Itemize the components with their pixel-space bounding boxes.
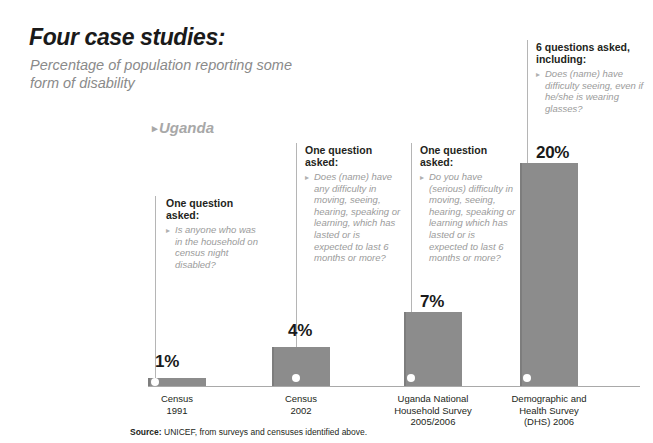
source-label: Source: <box>130 427 162 437</box>
bullet-triangle-icon: ▸ <box>166 225 170 237</box>
callout-body: ▸Does (name) have any difficulty in movi… <box>305 171 401 264</box>
bar-value-label-1: 1% <box>155 352 179 372</box>
callout-heading: One question asked: <box>305 144 401 168</box>
callout-heading: 6 questions asked, including: <box>536 41 648 65</box>
source-note: Source: UNICEF, from surveys and censuse… <box>130 427 367 437</box>
xaxis-label-unhs-2005-2006: Uganda National Household Survey 2005/20… <box>371 393 495 428</box>
bar-census-2002 <box>272 347 330 386</box>
bullet-triangle-icon: ▸ <box>305 172 309 184</box>
bar-value-label-2: 4% <box>288 321 312 341</box>
xlabel-line: Census <box>127 393 227 405</box>
xlabel-line: 2002 <box>251 405 351 417</box>
source-text: UNICEF, from surveys and censuses identi… <box>162 427 368 437</box>
callout-body-text: Does (name) have any difficulty in movin… <box>314 171 400 263</box>
xlabel-line: Health Survey <box>487 405 611 417</box>
xaxis-label-census-2002: Census 2002 <box>251 393 351 416</box>
xlabel-line: Demographic and <box>487 393 611 405</box>
leader-line-2 <box>296 143 297 381</box>
bar-value-label-4: 20% <box>536 143 569 163</box>
bar-value-label-3: 7% <box>420 292 444 312</box>
bar-anchor-dot-3 <box>407 374 415 382</box>
infographic-canvas: Four case studies: Percentage of populat… <box>0 0 653 443</box>
xlabel-line: Household Survey <box>371 405 495 417</box>
bullet-triangle-icon: ▸ <box>536 69 540 81</box>
callout-heading: One question asked: <box>166 197 262 221</box>
bar-anchor-dot-1 <box>151 378 159 386</box>
callout-body: ▸Is anyone who was in the household on c… <box>166 224 262 270</box>
bar-anchor-dot-4 <box>523 374 531 382</box>
callout-dhs-2006: 6 questions asked, including: ▸Does (nam… <box>536 41 648 114</box>
callout-unhs-2005-2006: One question asked: ▸Do you have (seriou… <box>420 144 516 264</box>
callout-body-text: Does (name) have difficulty seeing, even… <box>545 68 643 114</box>
axis-baseline <box>148 386 640 387</box>
xaxis-label-dhs-2006: Demographic and Health Survey (DHS) 2006 <box>487 393 611 428</box>
callout-body-text: Is anyone who was in the household on ce… <box>175 224 258 270</box>
callout-census-2002: One question asked: ▸Does (name) have an… <box>305 144 401 264</box>
xlabel-line: 2005/2006 <box>371 416 495 428</box>
xlabel-line: 1991 <box>127 405 227 417</box>
callout-body: ▸Does (name) have difficulty seeing, eve… <box>536 68 648 114</box>
bar-anchor-dot-2 <box>292 374 300 382</box>
xlabel-line: Uganda National <box>371 393 495 405</box>
bar-chart-plot: 1% One question asked: ▸Is anyone who wa… <box>0 0 653 443</box>
bar-dhs-2006 <box>520 163 578 386</box>
bullet-triangle-icon: ▸ <box>420 172 424 184</box>
xaxis-label-census-1991: Census 1991 <box>127 393 227 416</box>
xlabel-line: (DHS) 2006 <box>487 416 611 428</box>
callout-census-1991: One question asked: ▸Is anyone who was i… <box>166 197 262 270</box>
callout-body-text: Do you have (serious) difficulty in movi… <box>429 171 515 263</box>
callout-heading: One question asked: <box>420 144 516 168</box>
callout-body: ▸Do you have (serious) difficulty in mov… <box>420 171 516 264</box>
xlabel-line: Census <box>251 393 351 405</box>
